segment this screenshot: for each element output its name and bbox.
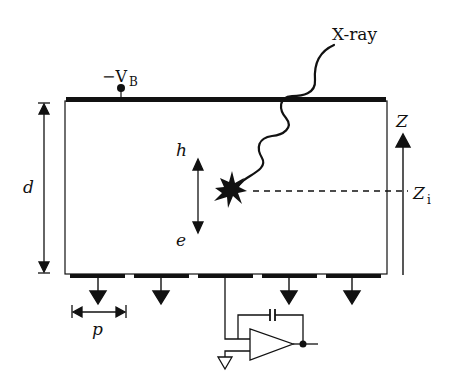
pixel-1	[70, 274, 125, 278]
pixel-3	[198, 274, 253, 278]
carrier-drift-arrow	[193, 159, 203, 233]
depth-axis-arrow	[396, 134, 410, 275]
ground-arrow-icon	[344, 278, 360, 304]
interaction-depth-label: Z	[412, 183, 426, 203]
depth-axis-label: Z	[395, 111, 409, 131]
ground-arrow-icon	[281, 278, 297, 304]
detector-diagram: −V B d p h e X-ray	[0, 0, 452, 382]
pixel-4	[262, 274, 317, 278]
thickness-label: d	[23, 177, 34, 197]
pitch-label: p	[92, 319, 103, 339]
ground-symbol-icon	[218, 357, 232, 369]
opamp-triangle-icon	[250, 329, 293, 360]
xray-photon-path	[236, 45, 334, 188]
hole-label: h	[176, 140, 187, 160]
bias-voltage-sub: B	[129, 75, 138, 89]
top-electrode	[66, 97, 386, 102]
feedback-wire-left	[238, 315, 270, 339]
ground-arrow-icon	[90, 278, 106, 304]
interaction-depth-sub: i	[427, 193, 431, 207]
pixel-electrodes	[70, 274, 381, 278]
electron-label: e	[176, 230, 186, 250]
output-node-dot	[300, 341, 307, 348]
ground-wire	[225, 351, 250, 357]
thickness-dimension	[38, 103, 50, 273]
bias-voltage-label: −V	[102, 67, 127, 86]
pixel-5	[326, 274, 381, 278]
ground-arrow-icon	[153, 278, 169, 304]
pixel-2	[134, 274, 189, 278]
xray-label: X-ray	[332, 24, 378, 44]
pitch-dimension	[72, 305, 126, 318]
preamplifier-circuit	[218, 278, 318, 369]
interaction-burst-icon	[214, 171, 247, 208]
